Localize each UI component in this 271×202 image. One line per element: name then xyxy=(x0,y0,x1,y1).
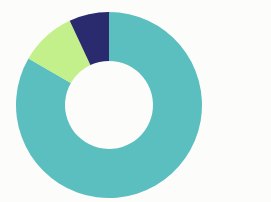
donut-chart xyxy=(0,0,271,202)
donut-slice-group xyxy=(16,12,202,198)
donut-chart-svg xyxy=(0,0,271,202)
